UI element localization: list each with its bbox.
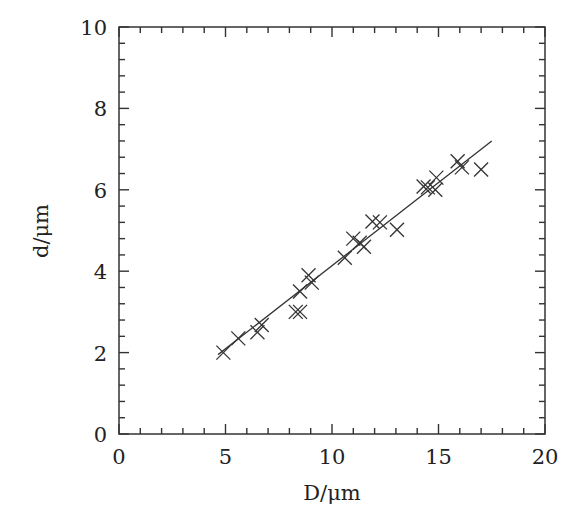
y-tick-label: 6 (94, 179, 107, 203)
x-marker-icon (474, 162, 488, 176)
x-tick-labels: 05101520 (112, 445, 558, 469)
data-points (216, 154, 488, 359)
x-marker-icon (373, 215, 387, 229)
y-tick-label: 4 (94, 260, 107, 284)
x-tick-label: 20 (532, 445, 559, 469)
x-marker-icon (293, 285, 307, 299)
y-tick-labels: 0246810 (80, 16, 107, 447)
y-tick-label: 8 (94, 97, 107, 121)
x-tick-label: 0 (112, 445, 125, 469)
x-marker-icon (231, 331, 245, 345)
x-marker-icon (250, 325, 264, 339)
axis-ticks (119, 27, 545, 434)
scatter-chart: 05101520 0246810 D/μm d/μm (0, 0, 577, 529)
y-tick-label: 0 (94, 423, 107, 447)
x-tick-label: 5 (219, 445, 232, 469)
x-marker-icon (216, 346, 230, 360)
y-tick-label: 10 (80, 16, 107, 40)
x-tick-label: 10 (319, 445, 346, 469)
x-axis-label: D/μm (303, 481, 361, 505)
x-marker-icon (357, 240, 371, 254)
plot-frame (119, 27, 545, 434)
y-tick-label: 2 (94, 342, 107, 366)
x-marker-icon (429, 171, 443, 185)
y-axis-label: d/μm (29, 204, 53, 258)
x-marker-icon (365, 215, 379, 229)
x-marker-icon (338, 251, 352, 265)
x-tick-label: 15 (425, 445, 452, 469)
x-marker-icon (390, 223, 404, 237)
